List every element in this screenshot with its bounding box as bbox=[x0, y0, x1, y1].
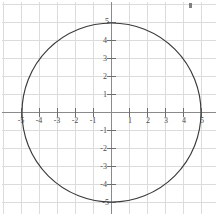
y-tick-label-1: 1 bbox=[103, 91, 107, 99]
y-tick-label--2: -2 bbox=[100, 145, 107, 153]
y-tick-label--5: -5 bbox=[102, 199, 109, 207]
x-tick-label-4: 4 bbox=[182, 117, 186, 125]
x-tick-label--2: -2 bbox=[72, 117, 79, 125]
x-tick-label--4: -4 bbox=[36, 117, 43, 125]
x-tick-label-1: 1 bbox=[128, 117, 132, 125]
ink-speck bbox=[189, 3, 192, 8]
y-tick-label--4: -4 bbox=[100, 181, 107, 189]
y-tick-label-5: 5 bbox=[105, 18, 109, 26]
x-tick-label-2: 2 bbox=[146, 117, 150, 125]
x-tick-label--1: -1 bbox=[90, 117, 97, 125]
y-tick-label-4: 4 bbox=[103, 37, 107, 45]
graph-canvas bbox=[0, 0, 218, 218]
x-tick-label--5: -5 bbox=[18, 117, 25, 125]
x-tick-label--3: -3 bbox=[54, 117, 61, 125]
graph-figure: -5 -4 -3 -2 -1 1 2 3 4 5 5 4 3 2 1 -1 -2… bbox=[0, 0, 218, 218]
x-tick-label-5: 5 bbox=[200, 117, 204, 125]
y-tick-label-3: 3 bbox=[103, 55, 107, 63]
y-tick-label--3: -3 bbox=[100, 163, 107, 171]
x-tick-label-3: 3 bbox=[164, 117, 168, 125]
y-tick-label-2: 2 bbox=[103, 73, 107, 81]
y-tick-label--1: -1 bbox=[100, 127, 107, 135]
